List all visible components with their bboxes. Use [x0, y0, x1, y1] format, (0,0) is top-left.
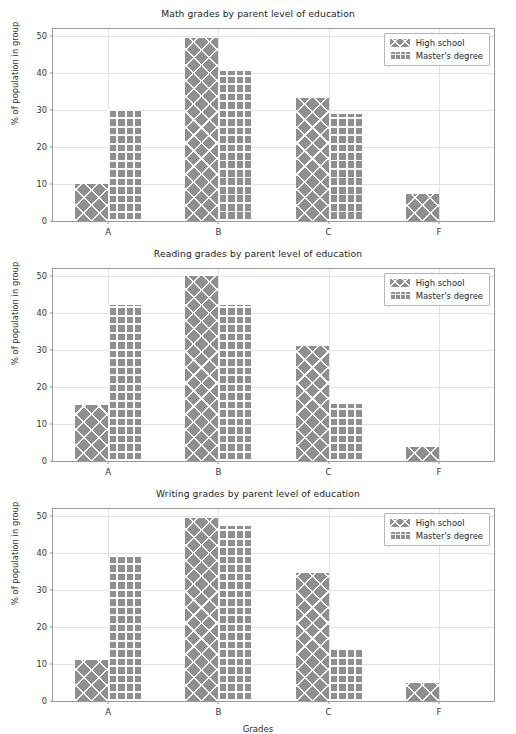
- legend-label: Master's degree: [416, 531, 483, 541]
- legend-item-md: Master's degree: [390, 531, 483, 541]
- x-tick-label: C: [326, 227, 332, 237]
- bar-hs-b: [185, 38, 218, 221]
- x-tick-mark: [218, 461, 219, 464]
- x-tick-mark: [108, 701, 109, 704]
- x-tick-mark: [218, 701, 219, 704]
- y-tick-label: 40: [37, 548, 47, 558]
- legend-swatch-hs-icon: [390, 39, 410, 47]
- x-tick-label: B: [215, 467, 221, 477]
- legend-swatch-md-icon: [390, 52, 410, 60]
- legend-label: Master's degree: [416, 291, 483, 301]
- y-tick-label: 0: [42, 696, 47, 706]
- legend-item-hs: High school: [390, 518, 483, 528]
- legend-swatch-md-icon: [390, 532, 410, 540]
- bar-hs-a: [75, 405, 108, 461]
- y-tick-label: 40: [37, 68, 47, 78]
- x-tick-mark: [108, 461, 109, 464]
- y-tick-mark: [50, 664, 53, 665]
- x-tick-label: C: [326, 467, 332, 477]
- y-tick-mark: [50, 590, 53, 591]
- y-axis-label-math: % of population in group: [10, 22, 20, 125]
- x-tick-mark: [438, 461, 439, 464]
- subplot-writing: Writing grades by parent level of educat…: [0, 480, 516, 725]
- bar-md-c: [329, 404, 362, 461]
- y-tick-label: 30: [37, 105, 47, 115]
- legend-swatch-hs-icon: [390, 519, 410, 527]
- y-tick-mark: [50, 387, 53, 388]
- y-tick-mark: [50, 424, 53, 425]
- y-tick-mark: [50, 516, 53, 517]
- x-tick-mark: [108, 221, 109, 224]
- bar-hs-c: [296, 98, 329, 221]
- x-tick-label: A: [105, 227, 111, 237]
- subplot-title-math: Math grades by parent level of education: [0, 8, 516, 19]
- legend-swatch-hs-icon: [390, 279, 410, 287]
- y-tick-label: 0: [42, 216, 47, 226]
- y-tick-label: 20: [37, 142, 47, 152]
- bar-hs-f: [406, 683, 439, 701]
- y-tick-label: 30: [37, 585, 47, 595]
- y-tick-label: 10: [37, 659, 47, 669]
- x-tick-label: F: [436, 707, 441, 717]
- plot-area-math: 01020304050ABCFHigh schoolMaster's degre…: [52, 28, 495, 222]
- y-tick-label: 10: [37, 179, 47, 189]
- bar-hs-c: [296, 346, 329, 461]
- x-tick-mark: [438, 701, 439, 704]
- legend-label: High school: [416, 518, 465, 528]
- bar-md-c: [329, 650, 362, 701]
- bar-md-c: [329, 114, 362, 221]
- y-tick-label: 50: [37, 271, 47, 281]
- bar-md-a: [108, 109, 141, 221]
- y-tick-label: 50: [37, 511, 47, 521]
- y-tick-mark: [50, 461, 53, 462]
- y-tick-mark: [50, 627, 53, 628]
- y-tick-mark: [50, 184, 53, 185]
- y-tick-mark: [50, 350, 53, 351]
- x-tick-label: C: [326, 707, 332, 717]
- bar-hs-c: [296, 573, 329, 701]
- y-tick-mark: [50, 701, 53, 702]
- subplot-math: Math grades by parent level of education…: [0, 0, 516, 248]
- y-tick-mark: [50, 221, 53, 222]
- x-tick-mark: [328, 701, 329, 704]
- x-tick-mark: [438, 221, 439, 224]
- bar-hs-b: [185, 518, 218, 701]
- y-tick-mark: [50, 553, 53, 554]
- legend: High schoolMaster's degree: [384, 33, 490, 66]
- y-tick-label: 30: [37, 345, 47, 355]
- x-tick-label: F: [436, 467, 441, 477]
- plot-area-writing: 01020304050ABCFHigh schoolMaster's degre…: [52, 508, 495, 702]
- x-tick-mark: [328, 221, 329, 224]
- legend-item-md: Master's degree: [390, 291, 483, 301]
- x-tick-label: A: [105, 467, 111, 477]
- legend: High schoolMaster's degree: [384, 513, 490, 546]
- bar-md-a: [108, 557, 141, 701]
- bar-md-a: [108, 305, 141, 461]
- x-tick-mark: [328, 461, 329, 464]
- x-tick-label: B: [215, 227, 221, 237]
- legend-item-md: Master's degree: [390, 51, 483, 61]
- y-gridline: [53, 553, 494, 554]
- y-axis-label-writing: % of population in group: [10, 502, 20, 605]
- bar-md-b: [218, 305, 251, 461]
- bar-md-b: [218, 526, 251, 701]
- subplot-title-writing: Writing grades by parent level of educat…: [0, 488, 516, 499]
- y-tick-mark: [50, 110, 53, 111]
- x-tick-label: F: [436, 227, 441, 237]
- bar-hs-a: [75, 184, 108, 221]
- legend-item-hs: High school: [390, 38, 483, 48]
- y-tick-label: 50: [37, 31, 47, 41]
- y-tick-label: 40: [37, 308, 47, 318]
- plot-area-reading: 01020304050ABCFHigh schoolMaster's degre…: [52, 268, 495, 462]
- x-tick-label: A: [105, 707, 111, 717]
- y-tick-mark: [50, 313, 53, 314]
- legend-label: High school: [416, 278, 465, 288]
- x-tick-mark: [218, 221, 219, 224]
- legend-label: Master's degree: [416, 51, 483, 61]
- y-tick-label: 20: [37, 382, 47, 392]
- bar-hs-a: [75, 660, 108, 701]
- y-tick-mark: [50, 276, 53, 277]
- subplot-reading: Reading grades by parent level of educat…: [0, 240, 516, 488]
- x-axis-label: Grades: [0, 724, 516, 734]
